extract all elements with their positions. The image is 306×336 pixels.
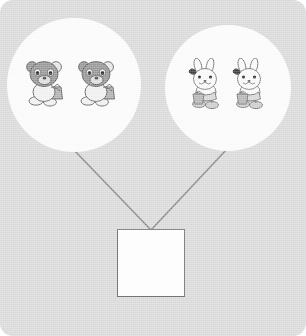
bear-figure-1 bbox=[23, 56, 69, 108]
group-circle-right bbox=[165, 25, 291, 151]
rabbit-figure-2 bbox=[227, 58, 273, 110]
group-circle-left bbox=[7, 18, 141, 152]
answer-box[interactable] bbox=[117, 229, 185, 297]
bear-figure-2 bbox=[75, 56, 121, 108]
worksheet-canvas bbox=[0, 0, 306, 336]
connector-left bbox=[72, 148, 151, 230]
connector-right bbox=[151, 148, 228, 230]
rabbit-figure-1 bbox=[183, 58, 229, 110]
